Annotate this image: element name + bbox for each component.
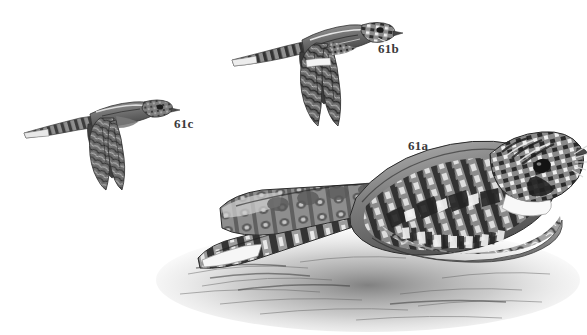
head [142, 100, 173, 117]
eye [377, 27, 384, 33]
figure-61b-flying-nightjar [228, 8, 403, 133]
illustration-plate: 61c [0, 0, 587, 335]
flying-nightjar-upper-drawing [228, 8, 403, 133]
eye-highlight [537, 162, 542, 166]
figure-61a-perched-nightjar [150, 128, 587, 335]
figure-label-61b: 61b [378, 42, 399, 55]
bill [393, 31, 403, 36]
perched-nightjar-drawing [150, 128, 587, 335]
figure-label-61a: 61a [408, 139, 428, 152]
eye [157, 104, 163, 109]
near-wing-primaries [108, 120, 125, 190]
bill [171, 108, 180, 112]
